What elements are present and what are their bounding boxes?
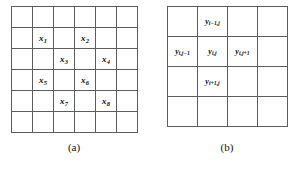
grid-cell-a-r6c5 (96, 112, 117, 133)
grid-cell-b-r3c3 (228, 67, 258, 97)
grid-cell-a-r2c1 (12, 28, 33, 49)
grid-cell-b-r1c3 (228, 7, 258, 37)
cell-label-x4: x4 (102, 55, 110, 64)
grid-cell-a-r1c5 (96, 7, 117, 28)
grid-cell-b-r4c3 (228, 97, 258, 127)
grid-cell-a-r2c3 (54, 28, 75, 49)
caption-b: (b) (197, 141, 257, 153)
grid-b: yi−1,jyi,j−1yi,jyi,j+1yi+1,j (167, 6, 288, 127)
grid-cell-b-r1c1 (168, 7, 198, 37)
grid-cell-a-r3c5: x4 (96, 49, 117, 70)
grid-a: x1x2x3x4x5x6x7x8 (11, 6, 138, 133)
grid-cell-b-r4c2 (198, 97, 228, 127)
grid-cell-a-r3c1 (12, 49, 33, 70)
grid-cell-b-r2c2: yi,j (198, 37, 228, 67)
cell-label-yi−1,j: yi−1,j (205, 18, 220, 26)
grid-cell-a-r5c3: x7 (54, 91, 75, 112)
grid-cell-a-r4c3 (54, 70, 75, 91)
grid-cell-a-r6c6 (117, 112, 138, 133)
grid-cell-a-r1c1 (12, 7, 33, 28)
grid-cell-b-r4c1 (168, 97, 198, 127)
grid-cell-a-r5c2 (33, 91, 54, 112)
grid-cell-b-r2c4 (258, 37, 288, 67)
grid-cell-a-r1c6 (117, 7, 138, 28)
grid-cell-a-r4c5 (96, 70, 117, 91)
grid-cell-a-r3c3: x3 (54, 49, 75, 70)
grid-cell-a-r6c1 (12, 112, 33, 133)
grid-cell-b-r3c2: yi+1,j (198, 67, 228, 97)
caption-a: (a) (44, 141, 104, 153)
grid-cell-a-r6c2 (33, 112, 54, 133)
cell-label-yi+1,j: yi+1,j (205, 78, 219, 86)
grid-cell-a-r1c3 (54, 7, 75, 28)
cell-label-x5: x5 (39, 76, 47, 85)
cell-label-yi,j: yi,j (208, 48, 216, 56)
grid-cell-b-r3c4 (258, 67, 288, 97)
cell-label-yi,j−1: yi,j−1 (175, 48, 190, 56)
grid-cell-a-r2c5 (96, 28, 117, 49)
grid-cell-b-r2c3: yi,j+1 (228, 37, 258, 67)
grid-cell-b-r1c2: yi−1,j (198, 7, 228, 37)
grid-cell-b-r4c4 (258, 97, 288, 127)
grid-cell-a-r5c5: x8 (96, 91, 117, 112)
grid-cell-a-r5c6 (117, 91, 138, 112)
grid-cell-a-r3c6 (117, 49, 138, 70)
grid-cell-a-r5c4 (75, 91, 96, 112)
figure-root: x1x2x3x4x5x6x7x8 (a) yi−1,jyi,j−1yi,jyi,… (0, 0, 297, 170)
grid-cell-b-r1c4 (258, 7, 288, 37)
grid-cell-a-r3c4 (75, 49, 96, 70)
grid-cell-a-r4c1 (12, 70, 33, 91)
grid-cell-a-r6c4 (75, 112, 96, 133)
grid-cell-a-r5c1 (12, 91, 33, 112)
grid-cell-b-r2c1: yi,j−1 (168, 37, 198, 67)
grid-cell-a-r6c3 (54, 112, 75, 133)
grid-cell-a-r4c4: x6 (75, 70, 96, 91)
grid-cell-a-r2c6 (117, 28, 138, 49)
grid-cell-a-r1c4 (75, 7, 96, 28)
cell-label-x2: x2 (81, 34, 89, 43)
grid-cell-a-r2c4: x2 (75, 28, 96, 49)
grid-cell-b-r3c1 (168, 67, 198, 97)
panel-b: yi−1,jyi,j−1yi,jyi,j+1yi+1,j (167, 6, 288, 127)
cell-label-x7: x7 (60, 97, 68, 106)
panel-a: x1x2x3x4x5x6x7x8 (11, 6, 138, 133)
grid-cell-a-r3c2 (33, 49, 54, 70)
grid-cell-a-r4c2: x5 (33, 70, 54, 91)
cell-label-x3: x3 (60, 55, 68, 64)
grid-cell-a-r1c2 (33, 7, 54, 28)
cell-label-x8: x8 (102, 97, 110, 106)
cell-label-yi,j+1: yi,j+1 (235, 48, 249, 56)
grid-cell-a-r4c6 (117, 70, 138, 91)
cell-label-x1: x1 (39, 34, 47, 43)
cell-label-x6: x6 (81, 76, 89, 85)
grid-cell-a-r2c2: x1 (33, 28, 54, 49)
